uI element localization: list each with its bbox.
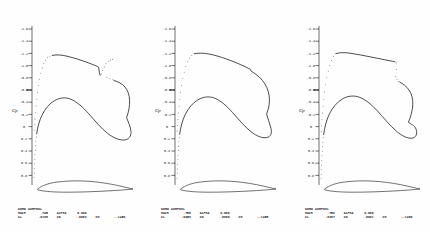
- svg-text:0.6: 0.6: [21, 161, 27, 165]
- svg-text:0.2: 0.2: [308, 137, 314, 141]
- svg-text:-1.4: -1.4: [163, 39, 171, 43]
- caption-cl-value-1: .6259: [176, 216, 191, 220]
- cp-curve-upper-0: [34, 55, 53, 131]
- svg-text:-0.4: -0.4: [307, 100, 315, 104]
- svg-text:-0.4: -0.4: [20, 100, 28, 104]
- svg-text:0.2: 0.2: [164, 137, 170, 141]
- svg-text:0: 0: [23, 125, 25, 129]
- svg-text:-0.2: -0.2: [307, 113, 315, 117]
- cp-tick-labels-0: -1.6-1.4 -1.2-1.0 -0.8-0.6 -0.4-0.2 00.2…: [20, 27, 28, 177]
- svg-text:0.4: 0.4: [308, 149, 314, 153]
- panel-caption-1: KORN AIRFOIL MACH .750 ALPHA 0.000 CL .6…: [161, 208, 283, 220]
- airfoil-profile-0: [37, 181, 133, 192]
- svg-text:0.8: 0.8: [164, 174, 170, 178]
- cp-axis-label-2: Cp: [299, 108, 305, 113]
- svg-text:0.8: 0.8: [308, 174, 314, 178]
- svg-text:-0.8: -0.8: [163, 76, 171, 80]
- airfoil-profile-2: [324, 181, 420, 192]
- cp-curve-upper-1: [177, 53, 195, 131]
- svg-text:-1.2: -1.2: [307, 52, 315, 56]
- cp-curve-lower-solid-1: [180, 97, 272, 138]
- caption-cm-label-1: CM: [239, 216, 252, 220]
- cp-plot-1: -1.6-1.4 -1.2-1.0 -0.8-0.6 -0.4-0.2 00.2…: [143, 0, 286, 232]
- svg-text:-0.8: -0.8: [20, 76, 28, 80]
- caption-cd-value-0: .0003: [72, 216, 87, 220]
- cp-panel-0: -1.6-1.4 -1.2-1.0 -0.8-0.6 -0.4-0.2 00.2…: [0, 0, 143, 232]
- panel-caption-2: KORN AIRFOIL MACH .752 ALPHA 0.000 CL .6…: [305, 208, 427, 220]
- cp-shock-markers-0: [101, 59, 114, 80]
- svg-text:0.4: 0.4: [21, 149, 27, 153]
- svg-text:-1.2: -1.2: [163, 52, 171, 56]
- svg-text:-1.0: -1.0: [307, 64, 315, 68]
- cp-plot-0: -1.6-1.4 -1.2-1.0 -0.8-0.6 -0.4-0.2 00.2…: [0, 0, 143, 232]
- svg-text:-0.4: -0.4: [163, 100, 171, 104]
- cp-panel-2: -1.6-1.4 -1.2-1.0 -0.8-0.6 -0.4-0.2 00.2…: [287, 0, 430, 232]
- svg-text:-0.2: -0.2: [163, 113, 171, 117]
- svg-text:0: 0: [310, 125, 312, 129]
- caption-cd-label-1: CD: [200, 216, 213, 220]
- cp-curve-lower-0: [34, 137, 37, 178]
- svg-text:-1.6: -1.6: [20, 27, 28, 31]
- caption-cd-label-2: CD: [344, 216, 357, 220]
- caption-cm-value-2: -.1460: [397, 216, 412, 220]
- cp-tick-labels-2: -1.6-1.4 -1.2-1.0 -0.8-0.6 -0.4-0.2 00.2…: [307, 27, 315, 177]
- cp-curve-lower-1: [177, 137, 180, 179]
- cp-curve-upper-2: [321, 53, 336, 132]
- airfoil-profile-1: [180, 181, 276, 192]
- cp-axis-2: [314, 26, 320, 185]
- caption-cl-label-2: CL: [305, 216, 318, 220]
- svg-text:-0.2: -0.2: [20, 113, 28, 117]
- caption-cd-value-2: .0001: [359, 216, 374, 220]
- caption-cm-value-1: -.1458: [253, 216, 268, 220]
- svg-text:0.6: 0.6: [308, 161, 314, 165]
- cp-panel-1: -1.6-1.4 -1.2-1.0 -0.8-0.6 -0.4-0.2 00.2…: [143, 0, 286, 232]
- caption-cd-label-0: CD: [57, 216, 70, 220]
- figure-sheet: -1.6-1.4 -1.2-1.0 -0.8-0.6 -0.4-0.2 00.2…: [0, 0, 430, 232]
- svg-text:-1.6: -1.6: [163, 27, 171, 31]
- svg-text:0.6: 0.6: [164, 161, 170, 165]
- svg-text:-1.4: -1.4: [307, 39, 315, 43]
- cp-curve-upper-aft-2: [399, 82, 412, 122]
- svg-text:-0.8: -0.8: [307, 76, 315, 80]
- cp-axis-0: [27, 26, 33, 185]
- panel-caption-0: KORN AIRFOIL MACH .745 ALPHA 0.000 CL .6…: [18, 208, 140, 220]
- cp-curve-lower-solid-2: [324, 96, 417, 138]
- cp-tick-labels-1: -1.6-1.4 -1.2-1.0 -0.8-0.6 -0.4-0.2 00.2…: [163, 27, 171, 177]
- caption-cl-value-0: .6198: [33, 216, 48, 220]
- svg-text:-0.6: -0.6: [20, 88, 28, 92]
- svg-text:-1.6: -1.6: [307, 27, 315, 31]
- svg-text:0.4: 0.4: [164, 149, 170, 153]
- cp-curve-upper-solid-1: [194, 53, 269, 114]
- caption-cl-label-0: CL: [18, 216, 31, 220]
- cp-axis-label-1: Cp: [155, 108, 161, 113]
- cp-plot-2: -1.6-1.4 -1.2-1.0 -0.8-0.6 -0.4-0.2 00.2…: [287, 0, 430, 232]
- caption-cm-label-2: CM: [383, 216, 396, 220]
- svg-text:0: 0: [166, 125, 168, 129]
- cp-curve-lower-solid-0: [37, 98, 131, 140]
- svg-text:-0.6: -0.6: [307, 88, 315, 92]
- svg-text:-1.0: -1.0: [20, 64, 28, 68]
- caption-cl-label-1: CL: [161, 216, 174, 220]
- cp-curve-upper-aft-0: [114, 80, 130, 117]
- cp-curve-lower-2: [321, 137, 324, 179]
- cp-axis-label-0: Cp: [12, 108, 18, 113]
- svg-text:0.8: 0.8: [21, 174, 27, 178]
- svg-text:-1.2: -1.2: [20, 52, 28, 56]
- svg-text:0.2: 0.2: [21, 137, 27, 141]
- cp-curve-upper-solid-0: [52, 55, 100, 76]
- cp-axis-1: [170, 26, 176, 185]
- caption-cl-value-2: .6367: [320, 216, 335, 220]
- caption-cd-value-1: .0000: [215, 216, 230, 220]
- cp-curve-upper-solid-2: [336, 53, 396, 62]
- caption-cm-label-0: CM: [96, 216, 109, 220]
- cp-shock-markers-2: [395, 63, 399, 82]
- svg-text:-1.4: -1.4: [20, 39, 28, 43]
- svg-text:-0.6: -0.6: [163, 88, 171, 92]
- caption-cm-value-0: -.1452: [110, 216, 125, 220]
- svg-text:-1.0: -1.0: [163, 64, 171, 68]
